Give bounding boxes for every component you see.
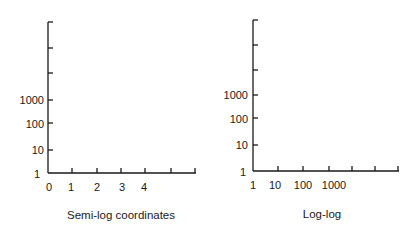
x-tick-label-4: 4 (141, 181, 147, 193)
y-tick-label-100: 100 (4, 118, 44, 130)
x-tick-label-100: 100 (294, 179, 312, 191)
x-tick-label-1: 1 (250, 179, 256, 191)
semi-log-chart: 1000 100 10 1 0 1 2 3 4 Semi-log coordin… (0, 0, 207, 238)
x-tick-label-2: 2 (94, 181, 100, 193)
log-log-chart: 1000 100 10 1 1 10 100 1000 Log-log (207, 0, 414, 238)
y-tick-label-1000: 1000 (4, 94, 44, 106)
x-tick-label-10: 10 (269, 179, 281, 191)
x-tick-label-3: 3 (119, 181, 125, 193)
y-tick-label-10: 10 (4, 144, 44, 156)
x-tick-label-0: 0 (46, 181, 52, 193)
y-tick-label-1: 1 (0, 168, 40, 180)
y-tick-label-1000: 1000 (208, 89, 248, 101)
y-tick-label-100: 100 (208, 113, 248, 125)
y-tick-label-10: 10 (208, 139, 248, 151)
x-tick-label-1000: 1000 (322, 179, 346, 191)
log-log-caption: Log-log (303, 208, 341, 221)
x-tick-label-1: 1 (68, 181, 74, 193)
y-tick-label-1: 1 (206, 166, 246, 178)
semi-log-caption: Semi-log coordinates (67, 209, 175, 222)
